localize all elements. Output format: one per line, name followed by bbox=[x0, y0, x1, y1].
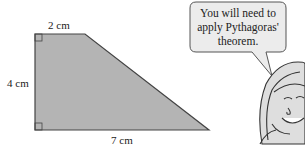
bubble-line-1: You will need to bbox=[190, 6, 286, 20]
label-left: 4 cm bbox=[7, 77, 29, 89]
label-top: 2 cm bbox=[48, 19, 70, 31]
speech-bubble-text: You will need to apply Pythagoras' theor… bbox=[190, 6, 286, 48]
character-illustration bbox=[260, 62, 305, 144]
bubble-line-2: apply Pythagoras' bbox=[190, 20, 286, 34]
trapezium-shape bbox=[35, 34, 209, 130]
bubble-line-3: theorem. bbox=[190, 34, 286, 48]
label-bottom: 7 cm bbox=[111, 134, 133, 146]
